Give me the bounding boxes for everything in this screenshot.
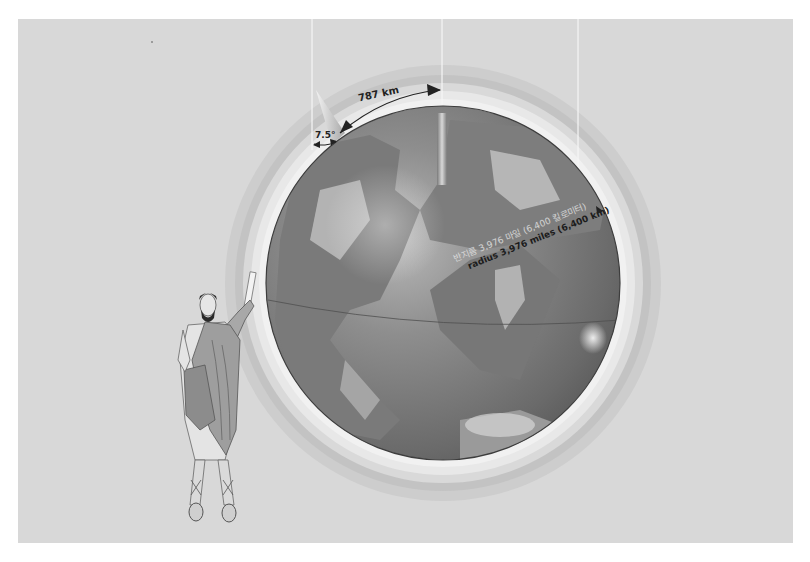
well-shaft <box>437 113 447 185</box>
speck <box>151 41 153 43</box>
eratosthenes-figure <box>178 272 256 522</box>
earth-measurement-diagram: 787 km 7.5° 반지름 3,976 마일 (6,400 킬로미터) ra… <box>0 0 810 562</box>
angle-label: 7.5° <box>315 130 335 140</box>
